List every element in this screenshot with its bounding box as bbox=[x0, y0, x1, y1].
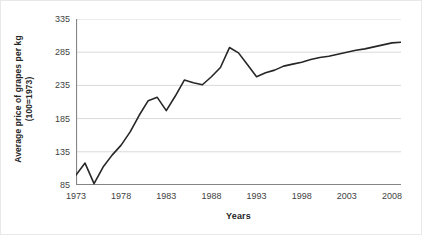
gridlines bbox=[76, 19, 401, 185]
x-axis-tick-label: 1988 bbox=[201, 191, 221, 201]
y-axis-tick-label: 185 bbox=[55, 114, 70, 124]
y-axis-tick-label: 85 bbox=[60, 180, 70, 190]
y-axis-tick-label: 335 bbox=[55, 14, 70, 24]
line-chart-svg bbox=[76, 19, 401, 185]
y-axis-title-line1: Average price of grapes per kg bbox=[13, 35, 24, 162]
y-axis-tick-label: 285 bbox=[55, 47, 70, 57]
plot-area bbox=[76, 19, 401, 185]
x-axis-tick-label: 1978 bbox=[111, 191, 131, 201]
x-axis-tick-label: 1998 bbox=[292, 191, 312, 201]
y-axis-tick-label: 235 bbox=[55, 80, 70, 90]
chart-figure: Average price of grapes per kg (100=1973… bbox=[0, 0, 422, 235]
data-series-line bbox=[76, 42, 401, 183]
x-axis-title: Years bbox=[76, 211, 401, 221]
x-axis-tick-label: 1993 bbox=[247, 191, 267, 201]
x-axis-tick-label: 2008 bbox=[382, 191, 402, 201]
x-axis-tick-labels: 19731978198319881993199820032008 bbox=[1, 191, 422, 207]
x-axis-tick-label: 1973 bbox=[66, 191, 86, 201]
x-axis-tick-label: 1983 bbox=[156, 191, 176, 201]
x-axis-tick-label: 2003 bbox=[337, 191, 357, 201]
y-axis-tick-label: 135 bbox=[55, 147, 70, 157]
y-axis-title-line2: (100=1973) bbox=[24, 35, 35, 162]
y-axis-title: Average price of grapes per kg (100=1973… bbox=[7, 1, 41, 197]
